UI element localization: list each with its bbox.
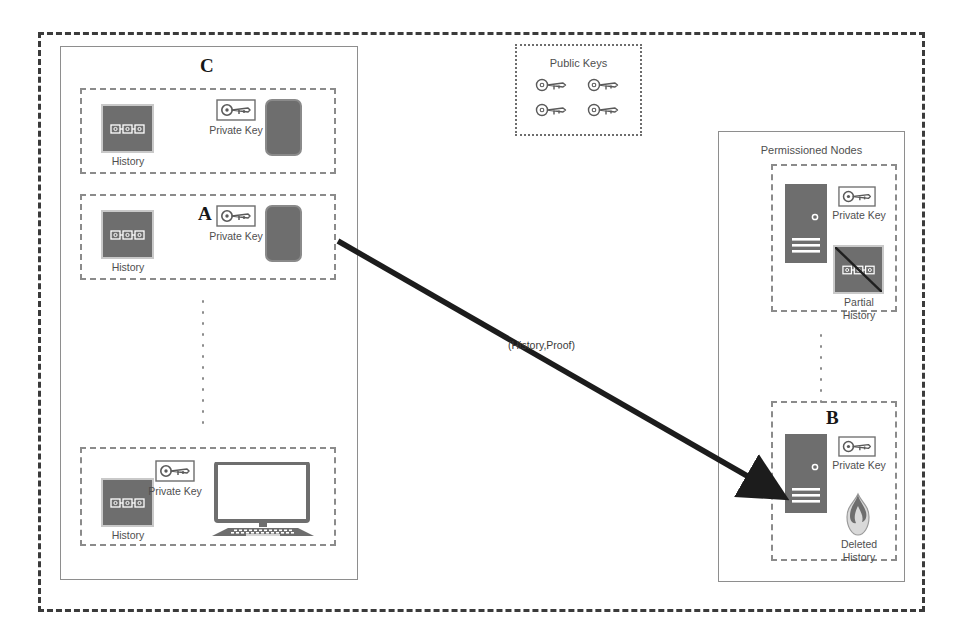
private-key-icon-c	[216, 99, 256, 125]
partial-history-label: Partial History	[826, 296, 892, 321]
permissioned-node-ellipsis	[816, 334, 826, 411]
history-icon-c	[101, 104, 154, 153]
public-key-icon-4	[586, 101, 622, 123]
private-key-label-c: Private Key	[196, 124, 276, 137]
blockchain-glyph	[110, 497, 146, 509]
blockchain-glyph	[110, 229, 146, 241]
public-keys-title: Public Keys	[517, 57, 640, 69]
history-icon-a	[101, 210, 154, 259]
private-key-icon-desktop	[155, 460, 195, 486]
private-key-icon-node-b	[838, 436, 876, 461]
private-key-label-a: Private Key	[196, 230, 276, 243]
group-a-letter: A	[198, 203, 212, 225]
partial-slash-overlay	[835, 247, 884, 294]
public-key-icon-2	[586, 76, 622, 98]
history-label-c: History	[91, 155, 165, 168]
permissioned-nodes-title: Permissioned Nodes	[718, 144, 905, 156]
desktop-computer-icon	[210, 462, 320, 542]
partial-history-icon	[833, 245, 884, 294]
server-icon-top	[785, 184, 827, 267]
private-key-label-node-b: Private Key	[821, 459, 897, 472]
smartphone-icon-a	[265, 205, 302, 262]
deleted-history-flame-icon	[840, 492, 876, 542]
private-key-label-node-top: Private Key	[821, 209, 897, 222]
private-key-icon-node-top	[838, 186, 876, 211]
smartphone-icon-c	[265, 99, 302, 156]
deleted-history-label: Deleted History	[826, 538, 892, 563]
diagram-canvas: C History Private Key A	[0, 0, 964, 638]
private-key-icon-a	[216, 205, 256, 231]
client-group-ellipsis	[198, 300, 208, 432]
group-c-letter: C	[200, 55, 214, 77]
blockchain-glyph	[110, 123, 146, 135]
public-key-icon-3	[534, 101, 570, 123]
history-label-desktop: History	[91, 529, 165, 542]
public-key-icon-1	[534, 76, 570, 98]
history-proof-label: (History,Proof)	[508, 339, 575, 351]
history-label-a: History	[91, 261, 165, 274]
private-key-label-desktop: Private Key	[135, 485, 215, 498]
node-b-letter: B	[826, 407, 839, 429]
server-icon-b	[785, 434, 827, 517]
public-keys-region: Public Keys	[515, 44, 642, 136]
